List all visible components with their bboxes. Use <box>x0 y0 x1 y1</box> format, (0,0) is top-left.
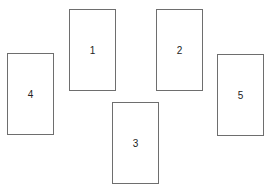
card-label: 5 <box>238 90 244 101</box>
card-5: 5 <box>217 54 264 136</box>
card-2: 2 <box>156 9 203 91</box>
card-label: 2 <box>177 45 183 56</box>
card-label: 1 <box>90 45 96 56</box>
card-label: 3 <box>133 138 139 149</box>
card-1: 1 <box>69 9 116 91</box>
card-4: 4 <box>7 53 54 135</box>
card-label: 4 <box>28 89 34 100</box>
card-3: 3 <box>112 102 159 184</box>
